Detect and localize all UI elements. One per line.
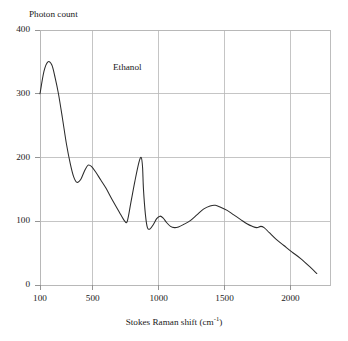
x-axis-title-tail: )	[219, 317, 222, 327]
x-tick-label: 1000	[139, 294, 179, 303]
x-tick-label: 100	[20, 294, 60, 303]
y-tick-label: 100	[4, 216, 30, 225]
y-axis-title: Photon count	[29, 10, 78, 19]
y-tick-label: 200	[4, 153, 30, 162]
data-series-group	[40, 62, 317, 274]
x-axis-title: Stokes Raman shift (cm-1)	[0, 318, 348, 327]
tick-marks-group	[35, 30, 290, 290]
spectrum-line	[40, 62, 317, 274]
chart-figure: Photon count Stokes Raman shift (cm-1) E…	[0, 0, 348, 341]
x-axis-title-main: Stokes Raman shift (cm	[126, 317, 214, 327]
gridlines-group	[40, 30, 330, 285]
raman-spectrum-plot	[0, 0, 348, 341]
x-tick-label: 2000	[270, 294, 310, 303]
y-tick-label: 300	[4, 89, 30, 98]
y-tick-label: 400	[4, 25, 30, 34]
x-tick-label: 500	[73, 294, 113, 303]
series-annotation-ethanol: Ethanol	[113, 63, 142, 72]
x-tick-label: 1500	[205, 294, 245, 303]
y-tick-label: 0	[4, 280, 30, 289]
